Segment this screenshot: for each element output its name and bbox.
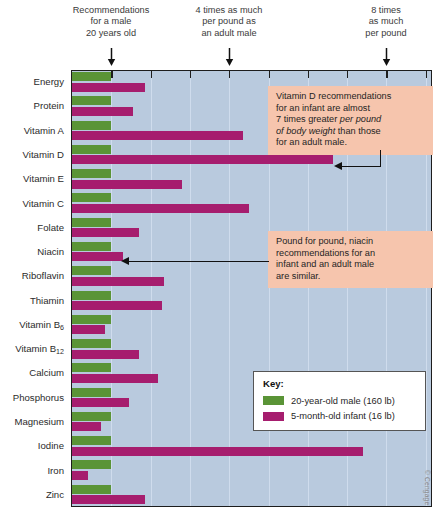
bar-infant bbox=[72, 83, 145, 92]
vitamin-d-leader-line bbox=[330, 150, 386, 172]
legend-entry-infant: 5-month-old infant (16 lb) bbox=[263, 410, 417, 423]
bar-infant bbox=[72, 252, 123, 261]
y-axis-label: Iodine bbox=[38, 440, 64, 451]
bar-group bbox=[72, 484, 431, 508]
callout-line: Vitamin D recommendations bbox=[276, 91, 391, 101]
bar-male bbox=[72, 363, 111, 372]
top-note-4x: 4 times as much per pound as an adult ma… bbox=[168, 5, 290, 39]
bar-infant bbox=[72, 107, 133, 116]
bar-male bbox=[72, 242, 111, 251]
bar-group bbox=[72, 314, 431, 338]
callout-line: for an infant are almost bbox=[276, 103, 370, 113]
y-axis-label: Vitamin C bbox=[23, 198, 64, 209]
bar-male bbox=[72, 412, 111, 421]
bar-infant bbox=[72, 228, 139, 237]
pointer-arrow-1x-icon bbox=[107, 48, 116, 66]
bar-infant bbox=[72, 131, 243, 140]
bar-infant bbox=[72, 301, 162, 310]
legend-label-male: 20-year-old male (160 lb) bbox=[291, 395, 395, 408]
bar-infant bbox=[72, 350, 139, 359]
y-axis-label: Protein bbox=[34, 100, 64, 111]
bar-infant bbox=[72, 398, 129, 407]
legend-key: Key: 20-year-old male (160 lb) 5-month-o… bbox=[253, 371, 426, 431]
y-axis-label: Thiamin bbox=[30, 295, 64, 306]
legend-swatch-male bbox=[263, 396, 284, 405]
bar-infant bbox=[72, 204, 249, 213]
vitamin-d-callout: Vitamin D recommendations for an infant … bbox=[268, 86, 433, 155]
callout-emphasis: per pound bbox=[340, 114, 381, 124]
legend-title: Key: bbox=[263, 378, 417, 391]
bar-male bbox=[72, 218, 111, 227]
chart-figure: Recommendations for a male 20 years old … bbox=[0, 0, 446, 527]
bar-group bbox=[72, 290, 431, 314]
bar-infant bbox=[72, 155, 333, 164]
bar-group bbox=[72, 459, 431, 483]
bar-male bbox=[72, 388, 111, 397]
y-axis-label: Vitamin A bbox=[24, 125, 64, 136]
bar-male bbox=[72, 460, 111, 469]
bar-group bbox=[72, 338, 431, 362]
y-axis-label: Vitamin D bbox=[23, 149, 64, 160]
bar-male bbox=[72, 291, 111, 300]
callout-line: 7 times greater bbox=[276, 114, 340, 124]
top-note-8x: 8 times as much per pound bbox=[330, 5, 442, 39]
callout-line: are similar. bbox=[276, 271, 320, 281]
y-axis-label: Energy bbox=[34, 76, 64, 87]
y-axis-label: Iron bbox=[47, 465, 64, 476]
y-axis-label: Magnesium bbox=[14, 416, 64, 427]
bar-male bbox=[72, 145, 111, 154]
y-axis-label: Folate bbox=[37, 222, 64, 233]
bar-infant bbox=[72, 471, 88, 480]
bar-male bbox=[72, 339, 111, 348]
bar-infant bbox=[72, 374, 158, 383]
y-axis-labels: EnergyProteinVitamin AVitamin DVitamin E… bbox=[0, 70, 68, 507]
callout-line: Pound for pound, niacin bbox=[276, 236, 373, 246]
callout-emphasis: of body weight bbox=[276, 126, 335, 136]
bar-male bbox=[72, 169, 111, 178]
bar-male bbox=[72, 193, 111, 202]
legend-entry-male: 20-year-old male (160 lb) bbox=[263, 395, 417, 408]
bar-male bbox=[72, 485, 111, 494]
bar-infant bbox=[72, 180, 182, 189]
bar-male bbox=[72, 96, 111, 105]
bar-infant bbox=[72, 495, 145, 504]
niacin-leader-line bbox=[119, 256, 269, 268]
y-axis-label: Vitamin E bbox=[23, 173, 64, 184]
callout-line: infant and an adult male bbox=[276, 259, 374, 269]
callout-line: than those bbox=[335, 126, 380, 136]
y-axis-label: Riboflavin bbox=[22, 270, 64, 281]
y-axis-label: Vitamin B6 bbox=[19, 319, 64, 330]
bar-male bbox=[72, 436, 111, 445]
callout-line: for an adult male. bbox=[276, 137, 347, 147]
y-axis-label: Phosphorus bbox=[13, 392, 64, 403]
bar-male bbox=[72, 121, 111, 130]
bar-male bbox=[72, 315, 111, 324]
top-note-1x: Recommendations for a male 20 years old bbox=[50, 5, 172, 39]
bar-infant bbox=[72, 325, 105, 334]
bar-male bbox=[72, 72, 111, 81]
bar-infant bbox=[72, 277, 164, 286]
bar-infant bbox=[72, 447, 363, 456]
pointer-arrow-8x-icon bbox=[382, 48, 391, 66]
legend-label-infant: 5-month-old infant (16 lb) bbox=[291, 410, 395, 423]
bar-male bbox=[72, 266, 111, 275]
y-axis-label: Zinc bbox=[46, 489, 64, 500]
y-axis-label: Niacin bbox=[37, 246, 64, 257]
bar-group bbox=[72, 435, 431, 459]
bar-infant bbox=[72, 422, 101, 431]
copyright-credit: © Cengage bbox=[424, 470, 431, 505]
pointer-arrow-4x-icon bbox=[225, 48, 234, 66]
niacin-callout: Pound for pound, niacin recommendations … bbox=[268, 231, 433, 288]
y-axis-label: Vitamin B12 bbox=[15, 343, 64, 354]
callout-line: recommendations for an bbox=[276, 248, 375, 258]
bar-group bbox=[72, 192, 431, 216]
y-axis-label: Calcium bbox=[29, 367, 64, 378]
legend-swatch-infant bbox=[263, 412, 284, 421]
